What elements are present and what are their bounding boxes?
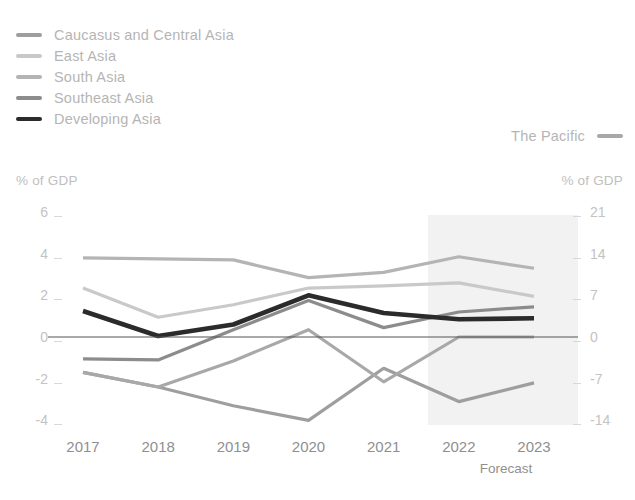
series-line xyxy=(83,257,534,278)
series-line xyxy=(83,368,534,420)
y-tick-mark-left xyxy=(54,258,62,259)
y-tick-mark-right xyxy=(573,299,581,300)
x-tick-label: 2020 xyxy=(274,438,344,455)
x-tick-label: 2017 xyxy=(48,438,118,455)
y-tick-label-left: 4 xyxy=(14,246,48,262)
y-tick-label-left: -2 xyxy=(14,371,48,387)
y-tick-label-right: 7 xyxy=(590,287,630,303)
x-tick-label: 2018 xyxy=(123,438,193,455)
x-tick-label: 2023 xyxy=(499,438,569,455)
y-tick-mark-right xyxy=(573,424,581,425)
y-tick-mark-right xyxy=(573,216,581,217)
y-tick-label-right: -14 xyxy=(590,412,630,428)
y-tick-label-right: 21 xyxy=(590,204,630,220)
x-tick-label: 2019 xyxy=(198,438,268,455)
x-tick-label: 2021 xyxy=(349,438,419,455)
y-tick-label-right: -7 xyxy=(590,371,630,387)
chart-root: Caucasus and Central AsiaEast AsiaSouth … xyxy=(0,0,635,500)
y-tick-label-right: 14 xyxy=(590,246,630,262)
y-tick-mark-left xyxy=(54,299,62,300)
plot-area xyxy=(0,0,635,500)
y-tick-label-left: 6 xyxy=(14,204,48,220)
y-tick-label-left: -4 xyxy=(14,412,48,428)
y-tick-label-right: 0 xyxy=(590,329,630,345)
y-tick-mark-right xyxy=(573,258,581,259)
forecast-label: Forecast xyxy=(446,461,566,476)
x-tick-label: 2022 xyxy=(424,438,494,455)
y-tick-mark-left xyxy=(54,341,62,342)
y-tick-label-left: 2 xyxy=(14,287,48,303)
y-tick-mark-right xyxy=(573,341,581,342)
y-tick-mark-right xyxy=(573,383,581,384)
y-tick-mark-left xyxy=(54,216,62,217)
y-tick-mark-left xyxy=(54,383,62,384)
series-canvas xyxy=(0,0,635,500)
y-tick-mark-left xyxy=(54,424,62,425)
y-tick-label-left: 0 xyxy=(14,329,48,345)
